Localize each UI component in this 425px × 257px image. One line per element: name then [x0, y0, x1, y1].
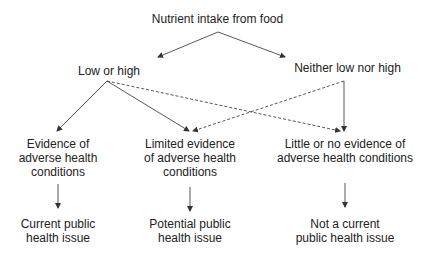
node-limited-line: of adverse health: [140, 151, 240, 165]
node-current-line: health issue: [15, 231, 101, 245]
node-little-line: adverse health conditions: [273, 151, 417, 165]
node-limited-evidence: Limited evidence of adverse health condi…: [140, 137, 240, 179]
node-low-or-high: Low or high: [70, 64, 148, 78]
node-potential-line: health issue: [145, 231, 235, 245]
node-notcurrent-line: Not a current: [290, 217, 400, 231]
edge-lowhigh-to-limited: [107, 81, 189, 131]
node-evidence: Evidence of adverse health conditions: [15, 137, 101, 179]
node-neither: Neither low nor high: [290, 61, 405, 75]
node-evidence-line: conditions: [15, 165, 101, 179]
edge-neither-to-limited-dashed: [193, 81, 344, 131]
node-limited-line: conditions: [140, 165, 240, 179]
node-root-label: Nutrient intake from food: [150, 12, 285, 26]
node-neither-label: Neither low nor high: [290, 61, 405, 75]
node-evidence-line: Evidence of: [15, 137, 101, 151]
node-current-issue: Current public health issue: [15, 217, 101, 245]
edge-lowhigh-to-little-dashed: [107, 81, 340, 131]
diagram-canvas: Nutrient intake from food Low or high Ne…: [0, 0, 425, 257]
node-low-or-high-label: Low or high: [70, 64, 148, 78]
node-evidence-line: adverse health: [15, 151, 101, 165]
edge-root-to-neither: [218, 32, 285, 57]
node-potential-line: Potential public: [145, 217, 235, 231]
node-root: Nutrient intake from food: [150, 12, 285, 26]
node-little-line: Little or no evidence of: [273, 137, 417, 151]
node-little-evidence: Little or no evidence of adverse health …: [273, 137, 417, 165]
node-limited-line: Limited evidence: [140, 137, 240, 151]
node-notcurrent-line: public health issue: [290, 231, 400, 245]
edge-lowhigh-to-evidence: [57, 81, 107, 131]
node-not-current-issue: Not a current public health issue: [290, 217, 400, 245]
node-current-line: Current public: [15, 217, 101, 231]
edge-root-to-low-high: [158, 32, 218, 57]
node-potential-issue: Potential public health issue: [145, 217, 235, 245]
